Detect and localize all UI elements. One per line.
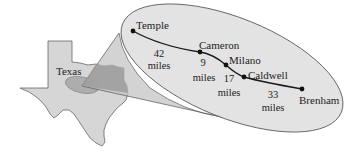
route-diagram: Temple Cameron Milano Caldwell Brenham 4… xyxy=(0,0,360,155)
city-dot-temple xyxy=(131,29,136,34)
distance-unit-temple-cameron: miles xyxy=(148,60,171,71)
distance-unit-caldwell-brenham: miles xyxy=(262,102,285,113)
city-dot-milano xyxy=(224,63,229,68)
distance-value-cameron-milano: 9 xyxy=(200,57,205,68)
city-label-temple: Temple xyxy=(136,19,169,31)
distance-unit-cameron-milano: miles xyxy=(193,72,216,83)
city-label-milano: Milano xyxy=(229,54,261,66)
state-label-texas: Texas xyxy=(56,65,82,77)
distance-value-milano-caldwell: 17 xyxy=(224,73,235,84)
city-label-caldwell: Caldwell xyxy=(248,69,288,81)
city-label-brenham: Brenham xyxy=(299,94,340,106)
distance-unit-milano-caldwell: miles xyxy=(218,87,241,98)
distance-value-caldwell-brenham: 33 xyxy=(268,89,279,100)
distance-value-temple-cameron: 42 xyxy=(154,48,165,59)
city-dot-brenham xyxy=(300,87,305,92)
city-dot-caldwell xyxy=(242,75,247,80)
city-label-cameron: Cameron xyxy=(199,39,240,51)
